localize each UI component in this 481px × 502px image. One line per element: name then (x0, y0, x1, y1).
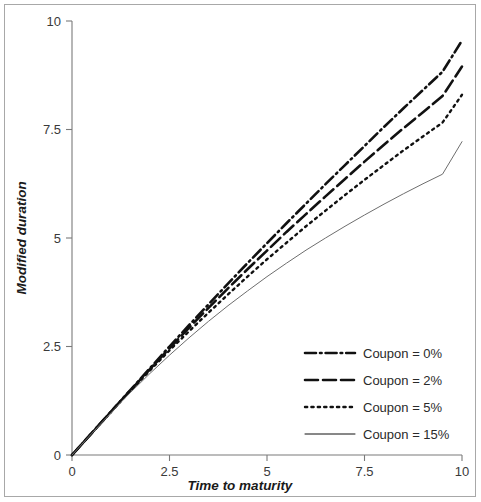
modified-duration-line-chart: 02.557.510 02.557.510 Time to maturity M… (0, 0, 481, 502)
data-series-group (72, 41, 462, 455)
x-tick-label: 0 (68, 464, 75, 479)
chart-figure: 02.557.510 02.557.510 Time to maturity M… (0, 0, 481, 502)
x-tick-label: 7.5 (355, 464, 373, 479)
y-tick-label: 10 (47, 14, 61, 29)
x-tick-label: 10 (455, 464, 469, 479)
x-axis-ticks: 02.557.510 (68, 455, 469, 479)
y-tick-label: 7.5 (43, 122, 61, 137)
x-tick-label: 2.5 (160, 464, 178, 479)
legend-label-1: Coupon = 2% (363, 373, 443, 388)
y-axis-ticks: 02.557.510 (43, 14, 72, 463)
legend-label-2: Coupon = 5% (363, 400, 443, 415)
legend-label-3: Coupon = 15% (363, 427, 450, 442)
y-tick-label: 2.5 (43, 339, 61, 354)
legend-label-0: Coupon = 0% (363, 346, 443, 361)
x-axis-title: Time to maturity (188, 478, 294, 493)
y-axis-title: Modified duration (14, 181, 29, 294)
y-tick-label: 0 (54, 448, 61, 463)
y-tick-label: 5 (54, 231, 61, 246)
x-tick-label: 5 (263, 464, 270, 479)
chart-legend: Coupon = 0%Coupon = 2%Coupon = 5%Coupon … (305, 346, 450, 442)
